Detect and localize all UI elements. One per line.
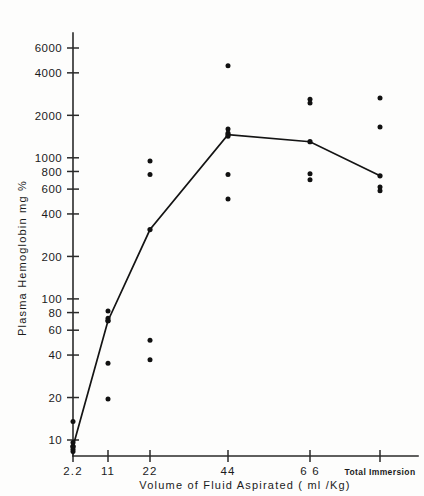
y-tick-label: 1000 bbox=[35, 152, 62, 164]
y-tick-label: 60 bbox=[48, 324, 62, 336]
mean-marker bbox=[377, 173, 382, 178]
data-points bbox=[70, 63, 382, 454]
y-tick-label: 6000 bbox=[35, 42, 62, 54]
y-tick-label: 40 bbox=[48, 349, 62, 361]
x-axis-title: Volume of Fluid Aspirated ( ml /Kg) bbox=[139, 479, 350, 491]
data-point bbox=[106, 361, 111, 366]
y-tick-label: 2000 bbox=[35, 110, 62, 122]
x-tick-label: 11 bbox=[101, 465, 115, 477]
y-tick-label: 800 bbox=[42, 166, 62, 178]
y-tick-label: 10 bbox=[48, 434, 62, 446]
data-point bbox=[378, 125, 383, 130]
mean-marker bbox=[105, 318, 110, 323]
x-tick-label: 6 6 bbox=[300, 465, 319, 477]
y-axis: 1020406080100200400600800100020004000600… bbox=[35, 33, 79, 456]
x-tick-label: 22 bbox=[143, 465, 158, 477]
data-point bbox=[106, 309, 111, 314]
data-point bbox=[226, 197, 231, 202]
figure-container: 1020406080100200400600800100020004000600… bbox=[0, 0, 424, 496]
mean-marker bbox=[147, 227, 152, 232]
data-point bbox=[71, 449, 76, 454]
x-axis: 2.21122446 6Total Immersion bbox=[63, 450, 418, 477]
data-point bbox=[148, 158, 153, 163]
data-point bbox=[378, 188, 383, 193]
y-tick-label: 600 bbox=[42, 183, 62, 195]
y-tick-label: 100 bbox=[42, 293, 62, 305]
x-tick-label: 2.2 bbox=[63, 465, 82, 477]
axis-titles: Volume of Fluid Aspirated ( ml /Kg)Plasm… bbox=[16, 180, 351, 491]
data-point bbox=[148, 338, 153, 343]
data-point bbox=[308, 100, 313, 105]
data-point bbox=[226, 172, 231, 177]
y-axis-title: Plasma Hemoglobin mg % bbox=[16, 180, 28, 336]
scatter-plot: 1020406080100200400600800100020004000600… bbox=[0, 0, 424, 496]
data-point bbox=[106, 397, 111, 402]
x-tick-label: Total Immersion bbox=[344, 467, 415, 477]
y-tick-label: 400 bbox=[42, 208, 62, 220]
data-point bbox=[148, 357, 153, 362]
mean-response-polyline bbox=[73, 135, 380, 447]
mean-marker bbox=[307, 139, 312, 144]
data-point bbox=[71, 419, 76, 424]
mean-marker bbox=[70, 444, 75, 449]
data-point bbox=[308, 171, 313, 176]
x-tick-label: 44 bbox=[221, 465, 236, 477]
mean-marker bbox=[225, 132, 230, 137]
data-point bbox=[226, 63, 231, 68]
y-tick-label: 80 bbox=[48, 307, 62, 319]
y-tick-label: 200 bbox=[42, 251, 62, 263]
y-tick-label: 4000 bbox=[35, 67, 62, 79]
data-point bbox=[148, 172, 153, 177]
mean-response-line bbox=[73, 135, 380, 447]
y-tick-label: 20 bbox=[48, 392, 62, 404]
data-point bbox=[378, 96, 383, 101]
data-point bbox=[308, 177, 313, 182]
